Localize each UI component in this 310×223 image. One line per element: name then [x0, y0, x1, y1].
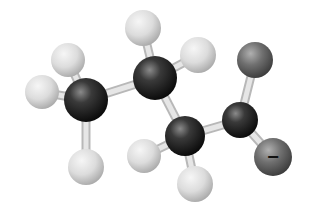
- molecule-model: −: [0, 0, 310, 223]
- hydrogen-atom: [180, 37, 216, 73]
- carbon-atom: [133, 56, 177, 100]
- hydrogen-atom: [127, 139, 161, 173]
- negative-charge-label: −: [266, 147, 279, 166]
- carbon-atom: [64, 78, 108, 122]
- oxygen-atom: [237, 42, 273, 78]
- atoms-layer: [25, 10, 292, 202]
- hydrogen-atom: [51, 43, 85, 77]
- hydrogen-atom: [177, 166, 213, 202]
- carbon-atom: [165, 116, 205, 156]
- hydrogen-atom: [68, 149, 104, 185]
- hydrogen-atom: [25, 75, 59, 109]
- hydrogen-atom: [125, 10, 161, 46]
- carbon-atom: [222, 102, 258, 138]
